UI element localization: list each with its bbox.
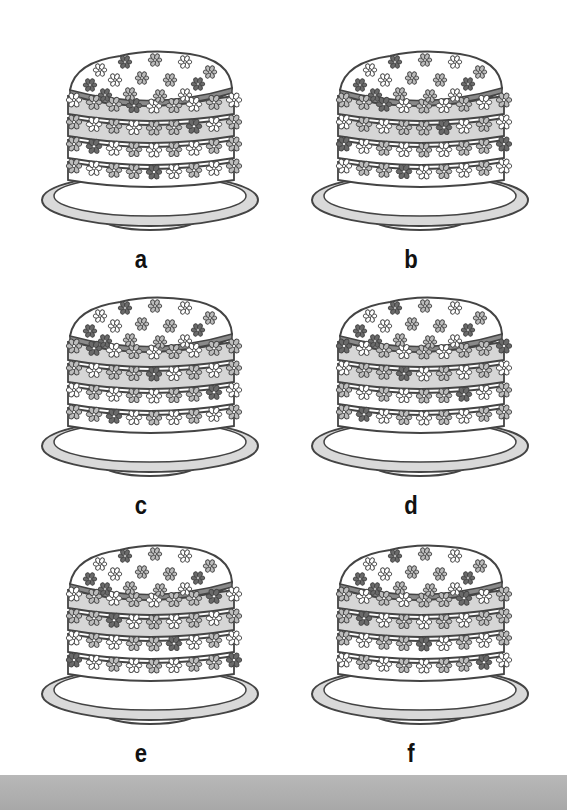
cake-illustration (30, 40, 290, 260)
cake-panel-f[interactable]: f (300, 534, 560, 774)
panel-label-e: e (124, 738, 158, 769)
panel-label-f: f (394, 738, 428, 769)
cake-panel-e[interactable]: e (30, 534, 290, 774)
panel-label-c: c (124, 490, 158, 521)
panel-label-d: d (394, 490, 428, 521)
cake-illustration (30, 534, 290, 754)
cake-panel-d[interactable]: d (300, 286, 560, 526)
panel-label-b: b (394, 244, 428, 275)
cake-illustration (300, 534, 560, 754)
cake-illustration (30, 286, 290, 506)
cake-panel-c[interactable]: c (30, 286, 290, 526)
cake-panel-b[interactable]: b (300, 40, 560, 280)
bottom-band (0, 775, 567, 810)
cake-illustration (300, 40, 560, 260)
panel-label-a: a (124, 244, 158, 275)
cake-panel-a[interactable]: a (30, 40, 290, 280)
cake-illustration (300, 286, 560, 506)
